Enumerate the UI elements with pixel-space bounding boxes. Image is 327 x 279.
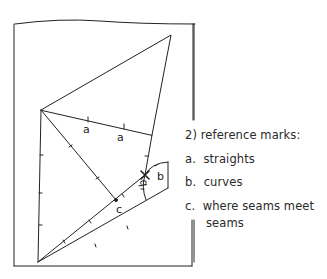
legend-item-c: c. where seams meet: [185, 199, 314, 213]
label-b1: b: [157, 170, 164, 183]
edge-apex-to-x: [145, 135, 152, 175]
edge-lower-diagonal: [38, 175, 145, 262]
legend-continuation: seams: [206, 216, 244, 230]
legend-key-c: c.: [185, 199, 195, 213]
triangle-top: [41, 35, 171, 135]
c-point: [115, 199, 118, 202]
label-a2: a: [117, 131, 124, 144]
legend-key-a: a.: [185, 152, 196, 166]
edge-left: [38, 110, 41, 262]
label-c: c: [116, 203, 122, 216]
legend-key-b: b.: [185, 175, 196, 189]
legend-item-b: b. curves: [185, 175, 242, 189]
label-b2: b: [136, 179, 150, 188]
legend-text-c: where seams meet: [203, 199, 314, 213]
label-a1: a: [83, 123, 90, 136]
legend-text-b: curves: [204, 175, 243, 189]
legend-item-a: a. straights: [185, 152, 255, 166]
legend-text-a: straights: [203, 152, 254, 166]
edge-diagonal: [41, 110, 116, 200]
frame-top: [15, 20, 195, 24]
legend-heading: 2) reference marks:: [185, 128, 300, 142]
frame-right: [192, 24, 194, 266]
edge-bottom: [38, 188, 168, 262]
